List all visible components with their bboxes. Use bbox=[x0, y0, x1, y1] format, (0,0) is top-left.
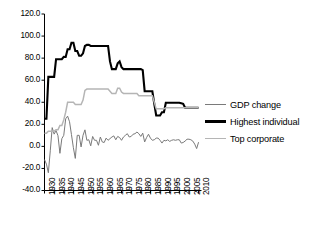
tax-rates-line-chart: 120.0100.080.060.040.020.00.0-20.0-40.0 … bbox=[0, 0, 322, 228]
x-tick-label: 2000 bbox=[183, 177, 192, 194]
y-tick-label: 0.0 bbox=[0, 141, 40, 150]
y-tick-label: 120.0 bbox=[0, 9, 40, 18]
x-tick-label: 1985 bbox=[154, 177, 163, 194]
x-tick-label: 1935 bbox=[58, 177, 67, 194]
axes bbox=[42, 14, 202, 194]
x-tick-label: 1975 bbox=[135, 177, 144, 194]
x-tick-label: 1990 bbox=[164, 177, 173, 194]
y-tick-label: 100.0 bbox=[0, 31, 40, 40]
legend-swatch bbox=[205, 120, 226, 123]
data-series-group bbox=[45, 43, 199, 173]
y-tick-label: 40.0 bbox=[0, 97, 40, 106]
legend-label: Highest individual bbox=[230, 117, 299, 127]
y-tick-label: 20.0 bbox=[0, 119, 40, 128]
y-tick-label: 80.0 bbox=[0, 53, 40, 62]
x-tick-label: 1950 bbox=[87, 177, 96, 194]
chart-legend: GDP changeHighest individualTop corporat… bbox=[205, 96, 299, 147]
legend-item: GDP change bbox=[205, 96, 299, 113]
y-tick-label: -40.0 bbox=[0, 185, 40, 194]
y-tick-label: 60.0 bbox=[0, 75, 40, 84]
x-tick-label: 2005 bbox=[193, 177, 202, 194]
x-tick-label: 1965 bbox=[116, 177, 125, 194]
series-line-top-corporate bbox=[45, 88, 199, 133]
x-tick-label: 2010 bbox=[202, 177, 211, 194]
y-tick-label: -20.0 bbox=[0, 163, 40, 172]
x-tick-label: 1940 bbox=[67, 177, 76, 194]
x-tick-label: 1995 bbox=[173, 177, 182, 194]
series-line-gdp-change bbox=[45, 116, 199, 173]
x-tick-label: 1960 bbox=[106, 177, 115, 194]
legend-swatch bbox=[205, 104, 226, 105]
x-tick-label: 1980 bbox=[144, 177, 153, 194]
x-tick-label: 1970 bbox=[125, 177, 134, 194]
legend-label: GDP change bbox=[230, 100, 281, 110]
legend-item: Highest individual bbox=[205, 113, 299, 130]
legend-swatch bbox=[205, 138, 226, 139]
x-tick-label: 1945 bbox=[77, 177, 86, 194]
legend-label: Top corporate bbox=[230, 134, 284, 144]
x-tick-label: 1930 bbox=[48, 177, 57, 194]
x-tick-label: 1955 bbox=[96, 177, 105, 194]
legend-item: Top corporate bbox=[205, 130, 299, 147]
